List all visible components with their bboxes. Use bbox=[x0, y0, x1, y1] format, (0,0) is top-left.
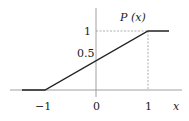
x-tick-1: 1 bbox=[145, 101, 152, 112]
y-tick-0.5: 0.5 bbox=[77, 48, 95, 59]
function-curve bbox=[22, 31, 169, 90]
x-tick-minus1: −1 bbox=[35, 101, 51, 112]
function-label: P (x) bbox=[120, 12, 146, 23]
y-tick-1: 1 bbox=[84, 26, 91, 37]
x-tick-0: 0 bbox=[93, 101, 100, 112]
chart-container: P (x) 1 0.5 −1 0 1 x bbox=[0, 0, 189, 121]
x-axis-label: x bbox=[173, 101, 179, 112]
